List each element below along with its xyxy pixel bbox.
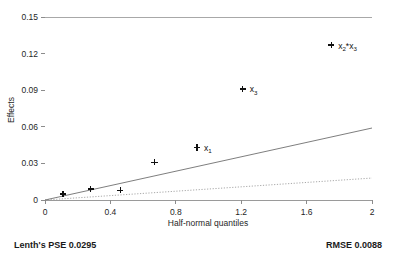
y-tick-label: 0.12	[21, 49, 38, 59]
x-tick-label: 1.2	[235, 207, 247, 217]
x-tick-label: 0.8	[170, 207, 182, 217]
plus-marker	[88, 186, 94, 192]
x-tick-label: 0.4	[104, 207, 116, 217]
plus-marker	[117, 187, 123, 193]
x-tick-label: 0	[43, 207, 48, 217]
x-tick-label: 1.6	[301, 207, 313, 217]
lenths-pse-annotation: Lenth's PSE 0.0295	[14, 240, 96, 250]
rmse-annotation: RMSE 0.0088	[326, 240, 382, 250]
plus-marker	[240, 86, 246, 92]
y-axis-tick-labels: 00.030.060.090.120.15	[21, 12, 38, 205]
plus-marker	[328, 42, 334, 48]
half-normal-plot: 00.40.81.21.62 00.030.060.090.120.15 x1x…	[0, 0, 396, 256]
x-axis-title: Half-normal quantiles	[168, 218, 248, 228]
fitted-reference-line	[45, 128, 372, 200]
plus-marker	[194, 144, 200, 150]
plus-marker	[151, 159, 157, 165]
y-axis-ticks	[41, 17, 45, 200]
y-tick-label: 0.15	[21, 12, 38, 22]
data-point-label: x3	[250, 84, 258, 95]
x-tick-label: 2	[370, 207, 375, 217]
data-point-label: x1	[204, 143, 212, 154]
y-tick-label: 0.06	[21, 122, 38, 132]
y-tick-label: 0.03	[21, 158, 38, 168]
y-tick-label: 0.09	[21, 85, 38, 95]
data-point-label: x2*x3	[338, 41, 357, 52]
chart-svg: 00.40.81.21.62 00.030.060.090.120.15 x1x…	[0, 0, 396, 256]
y-axis-title: Effects	[6, 97, 16, 123]
x-axis-ticks	[45, 200, 372, 204]
chart-footer: Lenth's PSE 0.0295 RMSE 0.0088	[0, 240, 396, 250]
data-point-labels: x1x3x2*x3	[204, 41, 357, 155]
x-axis-tick-labels: 00.40.81.21.62	[43, 207, 375, 217]
data-point-markers	[60, 42, 335, 197]
y-tick-label: 0	[33, 195, 38, 205]
